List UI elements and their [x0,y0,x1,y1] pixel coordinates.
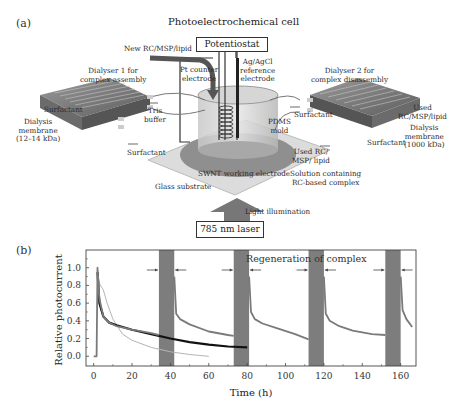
y-tick-label: 0.4 [67,316,82,326]
x-tick-label: 40 [165,371,177,381]
x-tick-label: 0 [91,371,97,381]
regeneration-band [159,250,174,366]
y-tick-label: 0.2 [67,334,81,344]
y-tick-label: 0.6 [67,298,82,308]
x-tick-label: 140 [354,371,371,381]
x-tick-label: 120 [315,371,332,381]
series-line [401,277,413,327]
series-line [324,277,385,335]
series-line [249,277,309,340]
y-tick-label: 1.0 [67,263,82,273]
regeneration-band [309,250,324,366]
photocurrent-chart: 020406080100120140160 0.00.20.40.60.81.0… [0,0,460,413]
y-tick-label: 0.8 [67,280,82,290]
series-line [94,268,159,357]
x-tick-label: 20 [126,371,138,381]
regeneration-band [234,250,249,366]
x-axis-label: Time (h) [230,387,273,398]
x-tick-label: 80 [241,371,253,381]
y-axis-label: Relative photocurrent [53,254,64,365]
x-tick-label: 60 [203,371,215,381]
x-tick-label: 160 [392,371,409,381]
y-tick-label: 0.0 [67,351,82,361]
series-line [174,277,233,336]
regeneration-annotation: Regeneration of complex [246,253,367,264]
x-tick-label: 100 [277,371,294,381]
regeneration-band [385,250,400,366]
series-line [98,272,209,356]
